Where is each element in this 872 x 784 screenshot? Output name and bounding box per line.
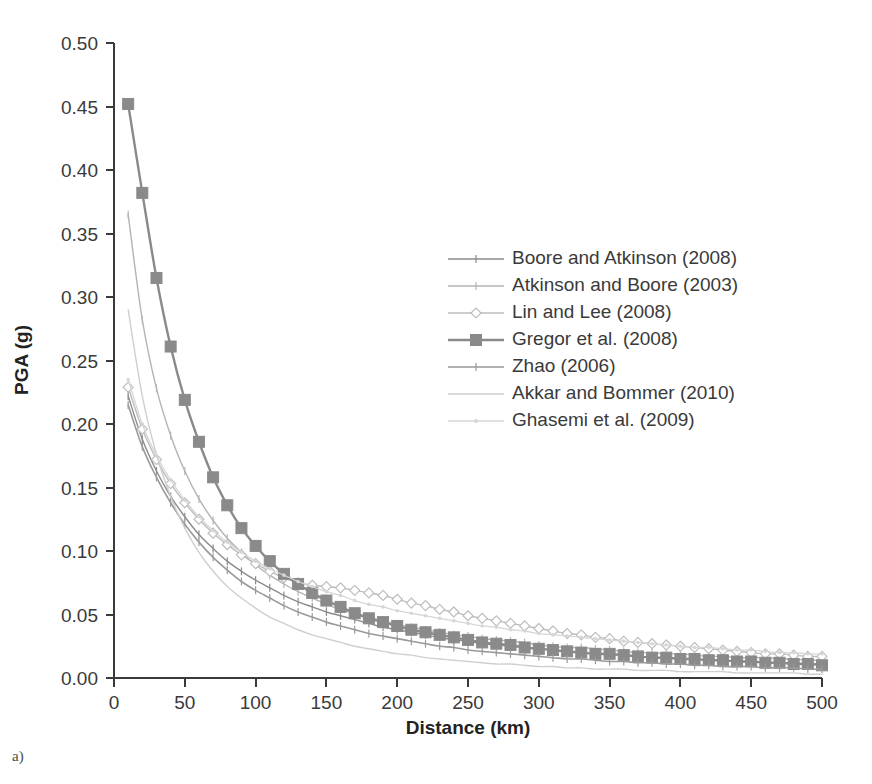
series-marker: [193, 436, 204, 447]
series-marker: [463, 611, 473, 621]
legend-swatch-marker: [474, 419, 478, 423]
legend-label-0: Boore and Atkinson (2008): [512, 247, 737, 268]
series-marker: [421, 601, 431, 611]
series-marker: [491, 616, 501, 626]
series-marker: [155, 454, 159, 458]
series-marker: [565, 634, 569, 638]
x-tick-label: 100: [240, 692, 272, 713]
series-2: [123, 382, 827, 661]
series-marker: [169, 478, 173, 482]
series-marker: [165, 341, 176, 352]
series-marker: [179, 394, 190, 405]
series-marker: [420, 627, 431, 638]
series-marker: [350, 585, 360, 595]
series-marker: [537, 632, 541, 636]
series-marker: [406, 598, 416, 608]
series-marker: [509, 628, 513, 632]
series-marker: [452, 619, 456, 623]
series-marker: [424, 614, 428, 618]
series-marker: [463, 634, 474, 645]
legend-label-2: Lin and Lee (2008): [512, 301, 672, 322]
y-tick-label: 0.20: [61, 414, 98, 435]
series-marker: [764, 650, 768, 654]
series-marker: [349, 608, 360, 619]
series-marker: [679, 644, 683, 648]
series-marker: [123, 98, 134, 109]
x-tick-label: 400: [665, 692, 697, 713]
series-marker: [126, 378, 130, 382]
legend-swatch-marker: [471, 335, 482, 346]
x-tick-label: 250: [452, 692, 484, 713]
series-marker: [410, 611, 414, 615]
y-tick-label: 0.45: [61, 97, 98, 118]
y-tick-label: 0.15: [61, 478, 98, 499]
series-marker: [321, 595, 332, 606]
series-marker: [449, 607, 459, 617]
legend-label-1: Atkinson and Boore (2003): [512, 274, 738, 295]
x-tick-label: 300: [523, 692, 555, 713]
x-axis-title: Distance (km): [406, 717, 531, 738]
series-marker: [268, 567, 272, 571]
series-marker: [141, 422, 145, 426]
series-marker: [211, 529, 215, 533]
x-tick-label: 500: [806, 692, 838, 713]
series-marker: [335, 601, 346, 612]
series-marker: [477, 613, 487, 623]
y-axis-title: PGA (g): [11, 325, 32, 395]
series-marker: [378, 617, 389, 628]
figure-container: 0.000.050.100.150.200.250.300.350.400.45…: [0, 0, 872, 784]
legend-label-6: Ghasemi et al. (2009): [512, 409, 695, 430]
series-marker: [735, 648, 739, 652]
chart-legend: Boore and Atkinson (2008)Atkinson and Bo…: [448, 247, 738, 430]
y-tick-label: 0.05: [61, 605, 98, 626]
x-axis-ticks: 050100150200250300350400450500: [109, 678, 838, 713]
series-marker: [438, 617, 442, 621]
series-marker: [594, 637, 598, 641]
series-marker: [477, 637, 488, 648]
legend-label-4: Zhao (2006): [512, 355, 616, 376]
series-marker: [495, 625, 499, 629]
x-tick-label: 350: [594, 692, 626, 713]
series-marker: [392, 594, 402, 604]
series-marker: [523, 629, 527, 633]
series-marker: [183, 498, 187, 502]
y-tick-label: 0.00: [61, 668, 98, 689]
series-line: [128, 405, 822, 669]
series-marker: [310, 585, 314, 589]
x-tick-label: 0: [109, 692, 120, 713]
series-marker: [264, 556, 275, 567]
series-marker: [792, 651, 796, 655]
series-marker: [254, 559, 258, 563]
series-marker: [579, 636, 583, 640]
series-marker: [551, 633, 555, 637]
series-marker: [778, 651, 782, 655]
series-marker: [434, 629, 445, 640]
figure-caption: a): [12, 748, 24, 765]
series-marker: [636, 641, 640, 645]
series-marker: [435, 604, 445, 614]
series-0: [128, 392, 822, 668]
x-tick-label: 150: [311, 692, 343, 713]
x-tick-label: 200: [381, 692, 413, 713]
series-marker: [353, 599, 357, 603]
series-marker: [707, 646, 711, 650]
y-tick-label: 0.40: [61, 160, 98, 181]
x-tick-label: 450: [735, 692, 767, 713]
series-line: [128, 310, 822, 675]
y-tick-label: 0.50: [61, 33, 98, 54]
legend-label-5: Akkar and Bommer (2010): [512, 382, 735, 403]
series-marker: [505, 618, 515, 628]
series-marker: [466, 622, 470, 626]
series-4: [128, 401, 822, 673]
series-marker: [749, 648, 753, 652]
y-tick-label: 0.10: [61, 541, 98, 562]
series-marker: [378, 590, 388, 600]
series-marker: [208, 472, 219, 483]
series-marker: [622, 639, 626, 643]
series-marker: [806, 652, 810, 656]
series-marker: [392, 620, 403, 631]
series-marker: [296, 580, 300, 584]
series-marker: [250, 540, 261, 551]
series-marker: [225, 540, 229, 544]
series-marker: [820, 652, 824, 656]
